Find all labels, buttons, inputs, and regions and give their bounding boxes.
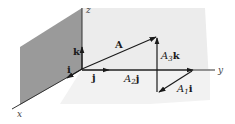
z-axis-label: z <box>85 5 91 15</box>
A-label: A <box>114 39 123 50</box>
y-axis-label: y <box>217 65 224 75</box>
k-label: k <box>73 46 81 57</box>
x-axis-label: x <box>17 109 22 119</box>
vector-component-diagram: z y x k i j A A3k A2j A1i <box>0 0 235 124</box>
i-label: i <box>67 64 71 75</box>
j-label: j <box>91 72 96 83</box>
